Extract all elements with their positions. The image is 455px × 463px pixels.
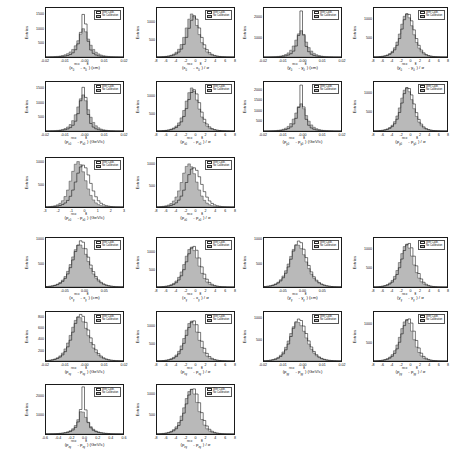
chart-panel-r1c3: Entries10002000With Calib.No Calibration… (240, 6, 344, 74)
legend-swatch-icon (96, 315, 101, 318)
y-tick-label: 200 (38, 349, 44, 353)
x-tick-label: 0 (410, 59, 412, 63)
chart-legend: With Calib.No Calibration (312, 10, 339, 20)
y-tick-label: 2000 (254, 15, 262, 19)
chart-panel-r3c2: Entries5001000With Calib.No Calibration-… (133, 156, 237, 224)
chart-panel-r4c1: Entries5001000With Calib.No Calibration-… (22, 236, 126, 304)
x-tick-label: 1 (97, 209, 99, 213)
y-tick-label: 500 (256, 119, 262, 123)
x-tick-label: 0 (195, 209, 197, 213)
x-tick-label: 4 (428, 289, 430, 293)
x-tick-label: 8 (447, 289, 449, 293)
plot-frame: With Calib.No Calibration (373, 81, 448, 132)
y-axis-ticks: 5001000 (358, 236, 373, 288)
legend-entry: No Calibration (420, 245, 443, 248)
histogram-series (46, 245, 123, 287)
x-tick-label: 0.02 (339, 59, 346, 63)
chart-legend: With Calib.No Calibration (205, 160, 232, 170)
x-tick-label: 3 (123, 209, 125, 213)
x-tick-label: -0.01 (279, 363, 287, 367)
x-tick-label: -6 (164, 209, 167, 213)
x-tick-label: 4 (428, 363, 430, 367)
x-tick-label: 0 (195, 363, 197, 367)
legend-swatch-icon (420, 15, 425, 18)
x-tick-label: -6 (381, 289, 384, 293)
x-axis-label: (xyreco - xyB) / σ (156, 295, 235, 304)
x-tick-label: 6 (438, 289, 440, 293)
x-axis-label: (pzyreco - pzyB) / σ (156, 442, 235, 451)
x-tick-label: 6 (224, 133, 226, 137)
x-tick-label: 0.02 (121, 59, 128, 63)
y-axis-ticks: 5001000 (141, 6, 156, 58)
legend-swatch-icon (96, 161, 101, 164)
x-tick-label: 0.02 (339, 363, 346, 367)
y-tick-label: 500 (366, 110, 372, 114)
chart-panel-body: Entries10002000With Calib.No Calibration… (240, 6, 344, 74)
chart-panel-r4c3: Entries5001000With Calib.No Calibration-… (240, 236, 344, 304)
x-tick-label: 2 (419, 59, 421, 63)
legend-label: No Calibration (102, 89, 118, 92)
plot-frame: With Calib.No Calibration (45, 81, 124, 132)
chart-panel-body: Entries5001000With Calib.No Calibration-… (133, 383, 237, 451)
y-tick-label: 400 (38, 337, 44, 341)
legend-swatch-icon (207, 85, 212, 88)
legend-label: No Calibration (213, 319, 229, 322)
y-axis-ticks: 5001000 (141, 80, 156, 132)
legend-entry: No Calibration (207, 392, 230, 395)
chart-panel-body: Entries5001000With Calib.No Calibration-… (350, 6, 450, 74)
legend-entry: No Calibration (314, 89, 337, 92)
legend-label: No Calibration (426, 319, 442, 322)
y-tick-label: 1500 (254, 98, 262, 102)
chart-legend: With Calib.No Calibration (205, 84, 232, 94)
x-tick-label: 8 (447, 59, 449, 63)
x-tick-label: 6 (224, 289, 226, 293)
y-tick-label: 1000 (147, 392, 155, 396)
x-tick-label: -0.01 (279, 133, 287, 137)
x-tick-label: -0.01 (279, 59, 287, 63)
x-tick-label: 2 (204, 59, 206, 63)
legend-swatch-icon (207, 11, 212, 14)
plot-frame: With Calib.No Calibration (156, 7, 235, 58)
x-tick-label: -6 (164, 363, 167, 367)
x-tick-label: 0.01 (319, 59, 326, 63)
legend-label: No Calibration (320, 245, 336, 248)
x-tick-label: -0.05 (279, 289, 287, 293)
legend-entry: No Calibration (420, 319, 443, 322)
legend-swatch-icon (96, 165, 101, 168)
plot-frame: With Calib.No Calibration (45, 7, 124, 58)
legend-label: No Calibration (213, 392, 229, 395)
y-axis-ticks: 5001000 (30, 156, 45, 208)
chart-legend: With Calib.No Calibration (94, 314, 121, 324)
x-tick-label: 0 (410, 289, 412, 293)
y-tick-label: 1000 (364, 247, 372, 251)
legend-entry: No Calibration (420, 89, 443, 92)
legend-swatch-icon (96, 388, 101, 391)
legend-swatch-icon (314, 245, 319, 248)
x-tick-label: 4 (214, 133, 216, 137)
y-axis-ticks: 50010001500 (30, 6, 45, 58)
legend-swatch-icon (207, 165, 212, 168)
x-tick-label: -0.02 (41, 133, 49, 137)
legend-label: No Calibration (213, 15, 229, 18)
x-axis-label: (yyreco - yyB) / σ (373, 295, 448, 304)
x-tick-label: -8 (371, 363, 374, 367)
chart-legend: With Calib.No Calibration (205, 387, 232, 397)
y-tick-label: 1000 (147, 20, 155, 24)
x-tick-label: 0.05 (319, 289, 326, 293)
legend-swatch-icon (207, 241, 212, 244)
x-tick-label: -0.01 (61, 59, 69, 63)
x-tick-label: -6 (164, 436, 167, 440)
chart-panel-r2c4: Entries5001000With Calib.No Calibration-… (350, 80, 450, 148)
x-tick-label: -8 (154, 209, 157, 213)
y-tick-label: 500 (256, 262, 262, 266)
x-tick-label: 0.05 (101, 289, 108, 293)
legend-label: No Calibration (213, 89, 229, 92)
plot-frame: With Calib.No Calibration (156, 384, 235, 435)
legend-entry: No Calibration (314, 245, 337, 248)
x-tick-label: -3 (43, 209, 46, 213)
legend-swatch-icon (314, 241, 319, 244)
x-axis-label: (pyyreco - pyyB) (GeV/c) (263, 369, 342, 378)
chart-legend: With Calib.No Calibration (418, 84, 445, 94)
x-axis-label: (py0reco - py0B) / σ (373, 139, 448, 148)
x-tick-label: -0.6 (42, 436, 48, 440)
